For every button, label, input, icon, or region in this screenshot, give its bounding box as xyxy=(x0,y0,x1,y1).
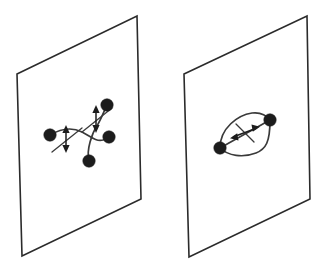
node-upper-right xyxy=(264,114,276,126)
node-right xyxy=(103,131,115,143)
topological-diagram-svg xyxy=(0,0,325,267)
node-top-right xyxy=(101,99,113,111)
right-panel xyxy=(184,16,310,257)
node-left xyxy=(44,129,56,141)
node-lower-left xyxy=(214,142,226,154)
node-bottom-left xyxy=(83,155,95,167)
left-panel xyxy=(17,16,141,256)
figure-container xyxy=(0,0,325,267)
plane-parallelogram-right xyxy=(184,16,310,257)
plane-parallelogram-left xyxy=(17,16,141,256)
